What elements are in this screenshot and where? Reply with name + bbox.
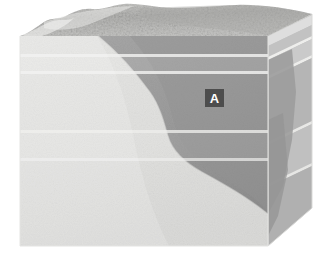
unit-label-a: A	[205, 89, 224, 107]
front-face	[18, 34, 270, 248]
unit-label-a-text: A	[210, 92, 219, 105]
block-diagram-graphic	[0, 0, 335, 276]
geologic-block-diagram: A	[0, 0, 335, 276]
eroded-top-surface	[20, 4, 312, 37]
right-side-face	[268, 12, 318, 250]
